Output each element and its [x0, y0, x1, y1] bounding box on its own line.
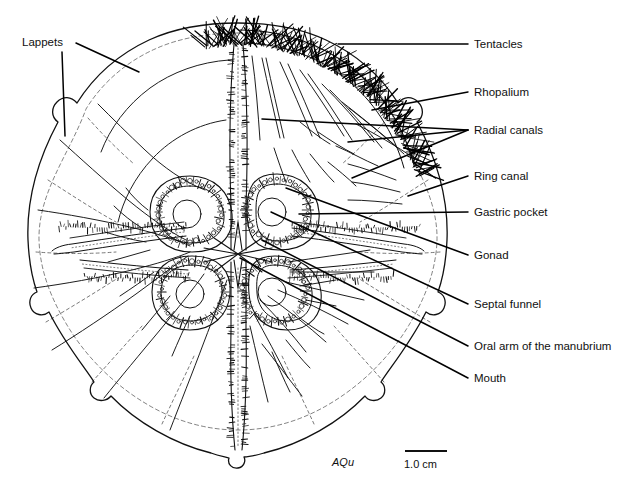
manubrium-frill-hair — [229, 94, 235, 95]
oral-arm-frill-hair — [109, 224, 110, 228]
manubrium-frill-hair — [242, 439, 248, 440]
jellyfish-anatomy-figure: AQu LappetsTentaclesRhopaliumRadial cana… — [0, 0, 623, 495]
label-ring-canal: Ring canal — [474, 170, 528, 182]
manubrium-frill-hair — [230, 363, 234, 364]
oral-arm-frill-hair — [111, 222, 112, 228]
artist-signature: AQu — [331, 456, 354, 468]
manubrium-frill-hair — [243, 70, 248, 71]
oral-arm-frill-hair — [123, 223, 124, 228]
oral-arm-frill-hair — [84, 273, 85, 276]
oral-arm-frill-hair — [133, 223, 134, 228]
manubrium-frill-hair — [228, 204, 235, 205]
manubrium-frill-hair — [227, 100, 234, 101]
manubrium-frill-hair — [231, 395, 234, 396]
manubrium-frill-hair — [230, 417, 234, 418]
manubrium-frill-hair — [242, 122, 249, 123]
oral-arm-frill-hair — [78, 221, 79, 227]
oral-arm-frill-hair — [355, 278, 356, 285]
label-rhopalium: Rhopalium — [474, 86, 529, 98]
oral-arm-frill-hair — [371, 272, 372, 278]
manubrium-frill-hair — [230, 385, 234, 386]
label-radial-canals: Radial canals — [474, 124, 543, 136]
manubrium-frill-hair — [242, 303, 247, 304]
oral-arm-frill-hair — [384, 277, 385, 282]
manubrium-frill-hair — [243, 120, 247, 121]
manubrium-frill-hair — [229, 129, 235, 130]
manubrium-frill-hair — [243, 154, 248, 155]
manubrium-frill-hair — [243, 329, 249, 330]
oral-arm-frill-hair — [362, 228, 363, 233]
oral-arm-frill-hair — [364, 228, 365, 231]
manubrium-frill-hair — [241, 322, 246, 323]
label-gonad: Gonad — [474, 249, 509, 261]
manubrium-frill-hair — [242, 318, 248, 319]
label-tentacles: Tentacles — [474, 38, 523, 50]
manubrium-frill-hair — [243, 164, 249, 165]
oral-arm-frill-hair — [173, 224, 174, 226]
oral-arm-frill-hair — [184, 226, 185, 231]
oral-arm-frill-hair — [118, 278, 119, 281]
oral-arm-frill-hair — [73, 224, 74, 227]
manubrium-frill-hair — [242, 98, 246, 99]
label-oral-arm-of-the-manubrium: Oral arm of the manubrium — [474, 340, 611, 352]
manubrium-frill-hair — [227, 193, 234, 194]
manubrium-frill-hair — [228, 296, 233, 297]
label-septal-funnel: Septal funnel — [474, 298, 541, 310]
manubrium-frill-hair — [242, 56, 248, 57]
manubrium-frill-hair — [229, 188, 234, 189]
manubrium-frill-hair — [243, 187, 249, 188]
label-mouth: Mouth — [474, 372, 506, 384]
manubrium-frill-hair — [241, 267, 246, 268]
oral-arm-frill-hair — [102, 228, 103, 233]
diagram-canvas: AQu LappetsTentaclesRhopaliumRadial cana… — [0, 0, 623, 495]
oral-arm-frill-hair — [148, 222, 149, 227]
manubrium-frill-hair — [241, 349, 248, 350]
oral-arm-frill-hair — [352, 228, 353, 232]
oral-arm-frill-hair — [145, 278, 146, 284]
manubrium-frill-hair — [229, 431, 233, 432]
manubrium-frill-hair — [242, 66, 246, 67]
manubrium-frill-hair — [243, 419, 249, 420]
manubrium-frill-hair — [243, 342, 250, 343]
oral-arm-frill-hair — [381, 277, 382, 281]
oral-arm-frill-hair — [159, 272, 160, 277]
label-lappets: Lappets — [22, 36, 63, 48]
oral-arm-frill-hair — [314, 224, 315, 227]
scale-bar-label: 1.0 cm — [404, 458, 437, 470]
manubrium-frill-hair — [230, 169, 234, 170]
oral-arm-frill-hair — [132, 274, 133, 278]
oral-arm-frill-hair — [393, 270, 394, 276]
manubrium-frill-hair — [241, 444, 248, 445]
manubrium-frill-hair — [242, 83, 247, 84]
label-gastric-pocket: Gastric pocket — [474, 206, 548, 218]
oral-arm-frill-hair — [412, 227, 413, 229]
manubrium-frill-hair — [231, 72, 234, 73]
